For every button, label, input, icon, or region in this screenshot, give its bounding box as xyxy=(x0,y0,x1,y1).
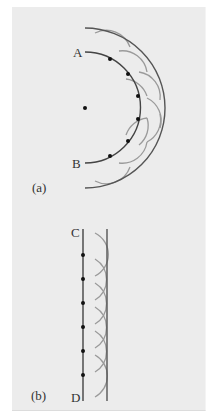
source-point xyxy=(83,106,87,110)
label-b: B xyxy=(72,156,81,171)
caption-b: (b) xyxy=(31,388,46,403)
wavelets-a xyxy=(95,30,161,184)
huygens-diagram: A B (a) C D (b) xyxy=(0,0,213,420)
panel-a: A B (a) xyxy=(32,28,165,195)
label-c: C xyxy=(71,225,80,240)
secondary-points-a xyxy=(108,57,140,158)
wavefront-ab xyxy=(85,52,141,163)
label-d: D xyxy=(71,390,80,405)
panel-b: C D (b) xyxy=(31,225,108,405)
outer-wavefront-a xyxy=(85,28,165,188)
caption-a: (a) xyxy=(32,180,46,195)
label-a: A xyxy=(73,45,83,60)
